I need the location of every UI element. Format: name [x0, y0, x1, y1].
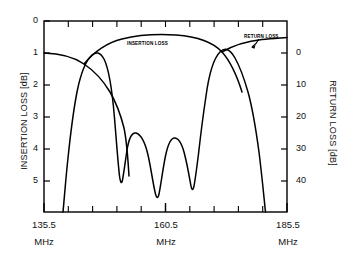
plot-canvas: [0, 0, 347, 264]
bottom-axis-major-ticks: [44, 203, 287, 212]
right-axis-ticks: [281, 53, 287, 181]
insertion-loss-curve: [44, 53, 129, 176]
plot-frame: [44, 21, 287, 212]
filter-response-chart: INSERTION LOSS [dB] RETURN LOSS [dB] 0 1…: [0, 0, 347, 264]
insertion-loss-flat-top: [84, 35, 242, 92]
top-axis-ticks: [68, 21, 262, 27]
left-axis-ticks: [44, 21, 50, 181]
